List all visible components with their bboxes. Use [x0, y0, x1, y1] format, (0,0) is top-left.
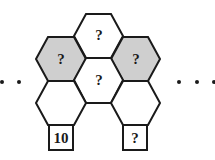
- hex-left-label: ?: [46, 51, 76, 67]
- ellipsis-left-dot-2: [17, 80, 21, 84]
- hex-right-label: ?: [121, 51, 151, 67]
- hex-bottom-right: [111, 81, 160, 125]
- hex-top-label: ?: [84, 27, 114, 43]
- hex-center-label: ?: [84, 72, 114, 88]
- ellipsis-right-dot-2: [195, 80, 199, 84]
- box-right-label: ?: [123, 127, 147, 149]
- box-left-label: 10: [49, 127, 73, 149]
- ellipsis-right-dot-3: [212, 80, 215, 84]
- hex-bottom-left: [36, 81, 86, 125]
- ellipsis-right-dot-1: [177, 80, 181, 84]
- ellipsis-left-dot-1: [0, 80, 4, 84]
